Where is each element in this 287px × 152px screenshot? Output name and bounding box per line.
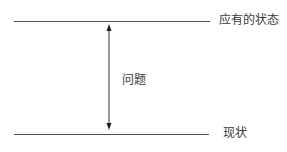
desired-state-label: 应有的状态 <box>219 13 279 27</box>
problem-label: 问题 <box>122 73 146 87</box>
current-state-label: 现状 <box>223 126 247 140</box>
